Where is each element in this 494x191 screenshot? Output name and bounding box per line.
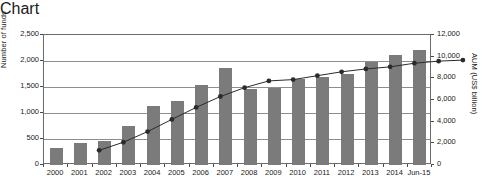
- bar: [171, 101, 184, 165]
- bar: [195, 85, 208, 165]
- x-axis-tick-label: 2013: [362, 168, 379, 177]
- x-axis-tick-label: 2005: [168, 168, 185, 177]
- y-axis-left-tick-label: 2,500: [20, 29, 39, 38]
- y-axis-right-tick-mark: [431, 99, 434, 100]
- x-axis-tick-mark: [407, 164, 408, 167]
- x-axis-tick-label: 2007: [217, 168, 234, 177]
- legend-label-number-of-funds: Number of funds: [304, 189, 359, 191]
- plot-area: [43, 34, 431, 164]
- y-axis-right-tick-mark: [431, 121, 434, 122]
- x-axis-tick-mark: [431, 164, 432, 167]
- x-axis-tick-mark: [67, 164, 68, 167]
- bar: [219, 68, 232, 165]
- bar: [98, 141, 111, 165]
- x-axis-tick-label: 2014: [386, 168, 403, 177]
- bar: [147, 106, 160, 165]
- x-axis-tick-label: 2006: [192, 168, 209, 177]
- x-axis-tick-mark: [334, 164, 335, 167]
- x-axis-tick-label: 2001: [71, 168, 88, 177]
- bar: [74, 143, 87, 165]
- y-axis-right-tick-label: 4,000: [437, 116, 456, 125]
- bar: [292, 79, 305, 165]
- line-marker-swatch-icon: [278, 190, 298, 191]
- x-axis-tick-label: Jun-15: [407, 168, 430, 177]
- bar: [365, 62, 378, 165]
- y-axis-right-tick-label: 10,000: [437, 51, 460, 60]
- y-axis-right-tick-mark: [431, 77, 434, 78]
- x-axis-tick-mark: [164, 164, 165, 167]
- x-axis-tick-label: 2002: [95, 168, 112, 177]
- bar: [389, 55, 402, 165]
- legend-label-aum: AUM: [189, 189, 206, 191]
- y-axis-right-tick-label: 0: [437, 159, 441, 168]
- x-axis-tick-mark: [43, 164, 44, 167]
- x-axis-tick-label: 2010: [289, 168, 306, 177]
- x-axis-tick-mark: [383, 164, 384, 167]
- x-axis-tick-mark: [310, 164, 311, 167]
- y-axis-right-title: AUM (US$ billion): [470, 53, 479, 114]
- y-axis-right-tick-mark: [431, 56, 434, 57]
- legend-item-aum: AUM: [163, 189, 206, 191]
- x-axis-tick-label: 2011: [314, 168, 330, 177]
- x-axis-tick-label: 2003: [120, 168, 137, 177]
- legend-item-number-of-funds: Number of funds: [278, 189, 359, 191]
- y-axis-left-title: Number of funds: [0, 11, 8, 68]
- x-axis-tick-label: 2004: [144, 168, 161, 177]
- y-axis-right-tick-label: 8,000: [437, 72, 456, 81]
- line-marker: [266, 79, 271, 84]
- x-axis-tick-mark: [286, 164, 287, 167]
- y-axis-right-tick-label: 6,000: [437, 94, 456, 103]
- bar: [268, 88, 281, 165]
- x-axis-tick-mark: [140, 164, 141, 167]
- bar: [244, 89, 257, 165]
- bar: [341, 74, 354, 165]
- combo-chart: Number of funds AUM (US$ billion) 05001,…: [0, 18, 494, 191]
- bar: [413, 50, 426, 165]
- x-axis-tick-label: 2012: [338, 168, 355, 177]
- x-axis-tick-label: 2009: [265, 168, 282, 177]
- bar: [316, 77, 329, 165]
- x-axis-tick-label: 2008: [241, 168, 258, 177]
- bar: [50, 148, 63, 165]
- y-axis-left-tick-label: 2,000: [20, 55, 39, 64]
- line-marker: [460, 58, 465, 63]
- x-axis-tick-mark: [237, 164, 238, 167]
- y-axis-left-tick-label: 0: [35, 159, 39, 168]
- chart-legend: AUM Number of funds: [0, 189, 494, 191]
- y-axis-right-tick-label: 12,000: [437, 29, 460, 38]
- x-axis-tick-mark: [261, 164, 262, 167]
- y-axis-right-tick-label: 2,000: [437, 137, 456, 146]
- bar: [122, 126, 135, 165]
- x-axis-tick-mark: [358, 164, 359, 167]
- y-axis-right-tick-mark: [431, 34, 434, 35]
- y-axis-left-tick-label: 500: [26, 133, 39, 142]
- y-axis-left-tick-label: 1,500: [20, 81, 39, 90]
- x-axis-tick-label: 2000: [47, 168, 64, 177]
- x-axis-tick-mark: [189, 164, 190, 167]
- y-axis-left-tick-label: 1,000: [20, 107, 39, 116]
- x-axis-tick-mark: [116, 164, 117, 167]
- x-axis-tick-mark: [213, 164, 214, 167]
- y-axis-right-tick-mark: [431, 142, 434, 143]
- x-axis-tick-mark: [92, 164, 93, 167]
